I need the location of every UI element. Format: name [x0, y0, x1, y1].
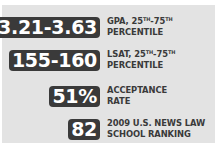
stat-label: ACCEPTANCE RATE — [107, 85, 167, 107]
stat-value-badge: 155-160 — [9, 50, 100, 71]
stat-label-text: GPA, 25 — [107, 16, 143, 26]
stat-label-text: 2009 U.S. NEWS LAW — [107, 118, 205, 128]
superscript: TH — [168, 49, 175, 55]
stat-label-text: RATE — [107, 96, 130, 106]
stat-label: 2009 U.S. NEWS LAW SCHOOL RANKING — [107, 118, 205, 140]
stat-label-text: PERCENTILE — [107, 27, 163, 37]
stat-ranking: 82 2009 U.S. NEWS LAW SCHOOL RANKING — [0, 119, 215, 141]
stat-label-text: -75 — [150, 16, 165, 26]
stat-value-badge: 82 — [68, 119, 100, 140]
stat-label: LSAT, 25TH-75TH PERCENTILE — [107, 49, 175, 71]
stat-acceptance: 51% ACCEPTANCE RATE — [0, 86, 215, 108]
superscript: TH — [146, 49, 153, 55]
superscript: TH — [165, 16, 172, 22]
stat-label-text: LSAT, 25 — [107, 49, 146, 59]
stat-value-badge: 3.21-3.63 — [0, 17, 100, 38]
stat-label-text: -75 — [153, 49, 168, 59]
stat-label-text: SCHOOL RANKING — [107, 129, 191, 139]
stat-label-text: ACCEPTANCE — [107, 85, 167, 95]
stat-lsat: 155-160 LSAT, 25TH-75TH PERCENTILE — [0, 50, 215, 72]
stat-label-text: PERCENTILE — [107, 60, 163, 70]
stat-gpa: 3.21-3.63 GPA, 25TH-75TH PERCENTILE — [0, 17, 215, 39]
stat-label: GPA, 25TH-75TH PERCENTILE — [107, 16, 173, 38]
stat-value-badge: 51% — [49, 86, 100, 107]
